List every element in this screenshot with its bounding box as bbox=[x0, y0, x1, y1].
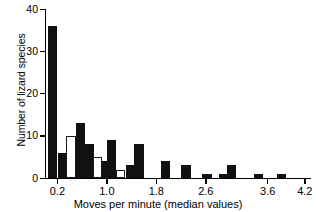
x-axis-line bbox=[45, 178, 311, 179]
x-axis-tick-label: 1.8 bbox=[136, 185, 176, 197]
histogram-bar-open bbox=[93, 157, 102, 178]
x-axis-title: Moves per minute (median values) bbox=[0, 198, 316, 210]
histogram-figure: Number of lizard species 010203040 0.21.… bbox=[0, 0, 316, 212]
histogram-bar-open bbox=[116, 170, 125, 178]
x-axis-tick-label: 0.2 bbox=[37, 185, 77, 197]
x-axis-tick bbox=[156, 179, 157, 184]
histogram-bar-open bbox=[66, 136, 75, 178]
x-axis-tick bbox=[304, 179, 305, 184]
x-axis-tick bbox=[106, 179, 107, 184]
x-axis-tick bbox=[267, 179, 268, 184]
x-axis-tick-label: 1.0 bbox=[87, 185, 127, 197]
x-axis-tick-label: 2.6 bbox=[186, 185, 226, 197]
plot-area bbox=[0, 0, 316, 212]
histogram-bar-filled bbox=[227, 165, 236, 178]
x-axis-tick bbox=[57, 179, 58, 184]
histogram-bar-filled bbox=[134, 144, 143, 178]
x-axis-tick-label: 4.2 bbox=[285, 185, 316, 197]
histogram-bar-filled bbox=[161, 161, 170, 178]
x-axis-tick-label: 3.6 bbox=[248, 185, 288, 197]
x-axis-tick bbox=[205, 179, 206, 184]
histogram-bar-filled bbox=[181, 165, 190, 178]
histogram-bar-filled bbox=[48, 26, 57, 178]
